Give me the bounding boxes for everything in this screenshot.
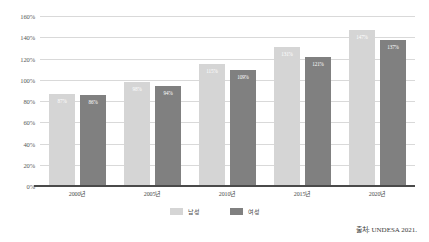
plot-frame: 87%86%98%94%115%109%131%121%147%137% 160… (40, 16, 415, 186)
bar-value-label: 87% (49, 98, 75, 104)
legend-item[interactable]: 남성 (170, 207, 200, 216)
bar[interactable]: 98% (124, 82, 150, 186)
y-axis-tick-label: 40% (23, 140, 35, 147)
y-axis-tick-label: 140% (20, 34, 35, 41)
bar-group: 87%86% (40, 16, 115, 186)
legend-swatch (230, 208, 243, 215)
y-axis-tick-label: 160% (20, 13, 35, 20)
y-axis-tick-label: 120% (20, 55, 35, 62)
bar-value-label: 86% (80, 99, 106, 105)
bar[interactable]: 109% (230, 70, 256, 186)
y-axis-tick-label: 80% (23, 98, 35, 105)
bar[interactable]: 115% (199, 64, 225, 186)
bar[interactable]: 137% (380, 40, 406, 186)
bar-value-label: 115% (199, 68, 225, 74)
bar-value-label: 147% (349, 34, 375, 40)
bar[interactable]: 147% (349, 30, 375, 186)
x-axis-tick-label: 2010년 (190, 189, 265, 198)
bar-value-label: 98% (124, 86, 150, 92)
bar-group: 147%137% (340, 16, 415, 186)
bar-value-label: 121% (305, 61, 331, 67)
chart-legend: 남성여성 (0, 207, 429, 216)
bar-value-label: 94% (155, 90, 181, 96)
legend-swatch (170, 208, 183, 215)
bar-value-label: 109% (230, 74, 256, 80)
bar-chart: 87%86%98%94%115%109%131%121%147%137% 160… (0, 0, 429, 242)
bar-group: 131%121% (265, 16, 340, 186)
x-axis-ticks: 2000년2005년2010년2015년2020년 (40, 189, 415, 198)
bar[interactable]: 87% (49, 94, 75, 186)
y-axis-tick-label: 100% (20, 76, 35, 83)
bar[interactable]: 121% (305, 57, 331, 186)
x-axis-tick-label: 2020년 (340, 189, 415, 198)
bar-value-label: 131% (274, 51, 300, 57)
bar[interactable]: 131% (274, 47, 300, 186)
plot-area: 87%86%98%94%115%109%131%121%147%137% (40, 16, 415, 186)
bar-group: 115%109% (190, 16, 265, 186)
legend-label: 남성 (188, 207, 200, 216)
bar[interactable]: 94% (155, 86, 181, 186)
x-axis-line (34, 185, 415, 187)
legend-label: 여성 (248, 207, 260, 216)
legend-item[interactable]: 여성 (230, 207, 260, 216)
y-axis-tick-label: 20% (23, 161, 35, 168)
x-axis-tick-label: 2000년 (40, 189, 115, 198)
y-axis-tick-label: 60% (23, 119, 35, 126)
bar-groups: 87%86%98%94%115%109%131%121%147%137% (40, 16, 415, 186)
source-note: 출처: UNDESA 2021. (356, 224, 417, 234)
x-axis-tick-label: 2015년 (265, 189, 340, 198)
bar[interactable]: 86% (80, 95, 106, 186)
bar-value-label: 137% (380, 44, 406, 50)
bar-group: 98%94% (115, 16, 190, 186)
y-axis-tick-label: 0% (27, 183, 35, 190)
x-axis-tick-label: 2005년 (115, 189, 190, 198)
